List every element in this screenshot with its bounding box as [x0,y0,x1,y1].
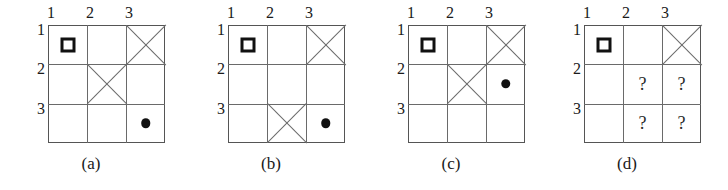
column-header-2: 2 [440,5,460,21]
cross-icon [87,64,126,103]
square-icon [60,37,75,52]
cell-r3c3[interactable] [306,104,345,143]
cell-r2c2[interactable] [87,64,126,103]
row-header-3: 3 [31,101,45,117]
cell-r2c2[interactable]: ? [623,64,662,103]
row-header-2: 2 [31,61,45,77]
cell-r1c3[interactable] [126,25,165,64]
cell-r3c1[interactable] [584,104,623,143]
grid-b: 123123 [228,25,345,143]
cell-r2c3[interactable] [126,64,165,103]
row-header-3: 3 [391,101,405,117]
cell-r1c3[interactable] [306,25,345,64]
cell-r2c1[interactable] [48,64,87,103]
cell-r2c3[interactable]: ? [662,64,701,103]
row-header-2: 2 [391,61,405,77]
column-header-3: 3 [655,5,675,21]
cell-r1c1[interactable] [408,25,447,64]
dot-icon [141,118,151,128]
cell-r2c3[interactable] [306,64,345,103]
cross-icon [447,64,486,103]
row-header-1: 1 [31,22,45,38]
grid-panel-d: 123123????(d) [536,0,718,190]
cross-icon [486,25,525,64]
column-header-3: 3 [119,5,139,21]
panel-caption-c: (c) [360,155,542,172]
grid-panel-b: 123123(b) [180,0,362,190]
cross-icon [126,25,165,64]
cell-r2c2[interactable] [447,64,486,103]
panel-caption-b: (b) [180,155,362,172]
grid-panel-a: 123123(a) [0,0,182,190]
grid-panel-c: 123123(c) [360,0,542,190]
row-header-2: 2 [211,61,225,77]
cell-r1c2[interactable] [447,25,486,64]
cell-r1c3[interactable] [486,25,525,64]
column-header-2: 2 [260,5,280,21]
cell-r3c3[interactable]: ? [662,104,701,143]
column-header-1: 1 [41,5,61,21]
square-icon [596,37,611,52]
cell-r3c3[interactable] [126,104,165,143]
column-header-1: 1 [221,5,241,21]
question-mark-label: ? [678,114,686,132]
cell-r1c1[interactable] [584,25,623,64]
cell-r2c2[interactable] [267,64,306,103]
column-header-3: 3 [299,5,319,21]
cell-r3c2[interactable] [87,104,126,143]
cell-r2c1[interactable] [228,64,267,103]
row-header-1: 1 [391,22,405,38]
cell-r3c2[interactable] [447,104,486,143]
cell-r1c1[interactable] [228,25,267,64]
cell-r3c1[interactable] [48,104,87,143]
cell-r3c2[interactable] [267,104,306,143]
dot-icon [501,79,511,89]
cross-icon [267,104,306,143]
cross-icon [306,25,345,64]
panel-caption-d: (d) [536,155,718,172]
cell-r3c1[interactable] [408,104,447,143]
row-header-2: 2 [567,61,581,77]
cell-r1c2[interactable] [623,25,662,64]
grid-d: 123123???? [584,25,701,143]
row-header-3: 3 [211,101,225,117]
row-header-1: 1 [567,22,581,38]
cell-r2c3[interactable] [486,64,525,103]
column-header-3: 3 [479,5,499,21]
cell-r3c2[interactable]: ? [623,104,662,143]
question-mark-label: ? [639,75,647,93]
row-header-1: 1 [211,22,225,38]
cell-r1c2[interactable] [267,25,306,64]
question-mark-label: ? [639,114,647,132]
row-header-3: 3 [567,101,581,117]
question-mark-label: ? [678,75,686,93]
column-header-1: 1 [401,5,421,21]
square-icon [240,37,255,52]
column-header-2: 2 [80,5,100,21]
cell-r1c3[interactable] [662,25,701,64]
cell-r3c3[interactable] [486,104,525,143]
square-icon [420,37,435,52]
figure-panel-row: 123123(a)123123(b)123123(c)123123????(d) [0,0,728,190]
dot-icon [321,118,331,128]
cell-r2c1[interactable] [408,64,447,103]
cell-r3c1[interactable] [228,104,267,143]
panel-caption-a: (a) [0,155,182,172]
cell-r2c1[interactable] [584,64,623,103]
cross-icon [662,25,701,64]
column-header-1: 1 [577,5,597,21]
cell-r1c2[interactable] [87,25,126,64]
column-header-2: 2 [616,5,636,21]
grid-c: 123123 [408,25,525,143]
grid-a: 123123 [48,25,165,143]
cell-r1c1[interactable] [48,25,87,64]
